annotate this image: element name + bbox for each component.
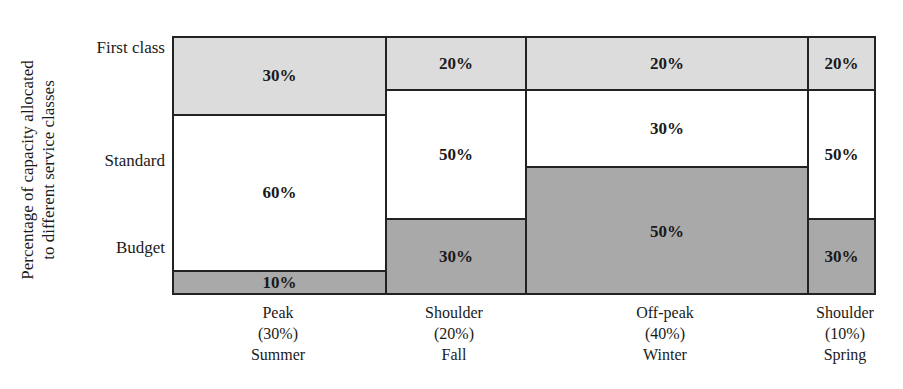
x-label-share: (10%) — [816, 323, 874, 344]
segment-value: 30% — [439, 247, 473, 267]
row-label-budget: Budget — [116, 238, 165, 258]
x-label-season: Off-peak — [636, 302, 693, 323]
y-axis-label-line-1: Percentage of capacity allocated — [17, 25, 38, 315]
segment-value: 20% — [439, 54, 473, 74]
segment-standard: 50% — [387, 89, 525, 218]
segment-value: 50% — [650, 222, 684, 242]
segment-value: 30% — [825, 247, 859, 267]
segment-value: 30% — [263, 66, 297, 86]
segment-value: 20% — [825, 54, 859, 74]
column-off-peak-winter: 20% 30% 50% — [527, 38, 807, 293]
segment-first-class: 20% — [527, 38, 807, 89]
column-shoulder-fall: 20% 50% 30% — [387, 38, 525, 293]
column-shoulder-spring: 20% 50% 30% — [809, 38, 874, 293]
segment-first-class: 30% — [174, 38, 385, 114]
x-label-shoulder-spring: Shoulder (10%) Spring — [816, 302, 874, 365]
x-label-shoulder-fall: Shoulder (20%) Fall — [425, 302, 483, 365]
segment-standard: 30% — [527, 89, 807, 166]
x-label-peak: Peak (30%) Summer — [251, 302, 305, 365]
x-label-off-peak: Off-peak (40%) Winter — [636, 302, 693, 365]
x-label-period: Winter — [636, 344, 693, 365]
segment-value: 20% — [650, 54, 684, 74]
x-label-season: Peak — [251, 302, 305, 323]
x-label-season: Shoulder — [425, 302, 483, 323]
x-label-share: (40%) — [636, 323, 693, 344]
x-label-share: (20%) — [425, 323, 483, 344]
segment-first-class: 20% — [809, 38, 874, 89]
x-label-period: Fall — [425, 344, 483, 365]
segment-value: 10% — [263, 273, 297, 293]
x-label-season: Shoulder — [816, 302, 874, 323]
x-label-period: Summer — [251, 344, 305, 365]
segment-budget: 50% — [527, 166, 807, 293]
segment-budget: 10% — [174, 270, 385, 293]
segment-standard: 60% — [174, 114, 385, 270]
segment-budget: 30% — [387, 218, 525, 293]
mosaic-chart: 30% 60% 10% 20% 50% 30% 20% 30% 50% 20% … — [172, 36, 876, 295]
segment-value: 50% — [439, 145, 473, 165]
segment-value: 50% — [825, 145, 859, 165]
segment-standard: 50% — [809, 89, 874, 218]
x-label-share: (30%) — [251, 323, 305, 344]
segment-value: 60% — [263, 183, 297, 203]
column-peak-summer: 30% 60% 10% — [174, 38, 385, 293]
row-label-first-class: First class — [97, 38, 165, 58]
y-axis-label-line-2: to different service classes — [38, 25, 59, 315]
row-label-standard: Standard — [105, 151, 165, 171]
segment-first-class: 20% — [387, 38, 525, 89]
segment-budget: 30% — [809, 218, 874, 293]
segment-value: 30% — [650, 119, 684, 139]
x-label-period: Spring — [816, 344, 874, 365]
